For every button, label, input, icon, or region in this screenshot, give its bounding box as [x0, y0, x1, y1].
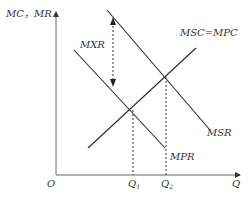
- mpr-curve: [74, 50, 165, 148]
- externality-diagram: MC，MR O Q MSC=MPC MXR MSR MPR Q1 Q2: [0, 0, 248, 203]
- q2-label: Q2: [161, 178, 173, 190]
- mxr-label: MXR: [79, 39, 105, 50]
- q1-label: Q1: [128, 178, 140, 190]
- origin-label: O: [47, 178, 55, 189]
- msr-label: MSR: [206, 127, 232, 138]
- mpr-label: MPR: [169, 151, 195, 162]
- arrow-up-icon: [110, 17, 116, 25]
- msc-mpc-label: MSC=MPC: [179, 27, 238, 38]
- msc-mpc-curve: [88, 48, 196, 148]
- arrow-down-icon: [110, 79, 116, 87]
- y-axis-label: MC，MR: [5, 8, 52, 19]
- x-axis-label: Q: [232, 178, 240, 189]
